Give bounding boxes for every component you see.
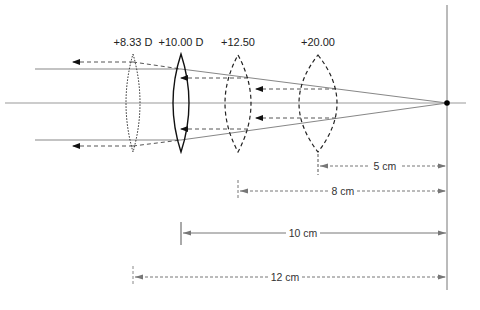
dimension-12cm: 12 cm xyxy=(135,271,446,283)
lens-label-12-50: +12.50 xyxy=(221,36,255,48)
dashed-ray-upper-8-33-converge xyxy=(133,62,181,69)
dimension-5cm: 5 cm xyxy=(320,160,446,172)
ray-lower xyxy=(35,103,447,140)
svg-text:10 cm: 10 cm xyxy=(289,227,318,239)
lens-label-10-00: +10.00 D xyxy=(159,36,204,48)
lens-label-8-33: +8.33 D xyxy=(114,36,153,48)
lens-label-20-00: +20.00 xyxy=(301,36,335,48)
dimension-8cm: 8 cm xyxy=(240,185,446,197)
svg-text:8 cm: 8 cm xyxy=(332,185,355,197)
dimension-10cm: 10 cm xyxy=(183,227,446,239)
svg-text:5 cm: 5 cm xyxy=(374,160,397,172)
lens-power-diagram: +8.33 D +10.00 D +12.50 +20.00 5 cm 8 cm… xyxy=(0,0,480,310)
focal-point xyxy=(444,100,450,106)
svg-text:12 cm: 12 cm xyxy=(271,271,300,283)
dashed-ray-lower-8-33-converge xyxy=(133,140,181,146)
ray-upper xyxy=(35,69,447,103)
